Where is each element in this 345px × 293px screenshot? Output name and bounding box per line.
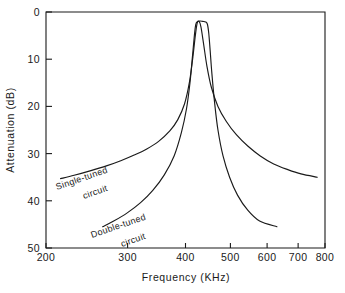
y-axis-title: Attenuation (dB) (4, 87, 16, 172)
attenuation-vs-frequency-chart: 200300400500600700800 01020304050 Freque… (0, 0, 345, 293)
plot-frame (46, 12, 325, 248)
y-axis-tick-labels: 01020304050 (28, 6, 40, 254)
y-tick-label: 40 (28, 195, 40, 207)
y-axis-ticks (46, 12, 52, 248)
x-tick-label: 300 (118, 251, 137, 263)
y-tick-label: 30 (28, 148, 40, 160)
x-tick-label: 500 (221, 251, 240, 263)
double-tuned-label: Double-tuned circuit (89, 212, 147, 249)
x-axis-title: Frequency (KHz) (142, 271, 230, 283)
x-tick-label: 800 (316, 251, 335, 263)
single-tuned-label-line2: circuit (81, 183, 109, 201)
x-tick-label: 600 (258, 251, 277, 263)
single-tuned-label: Single-tuned circuit (54, 165, 109, 201)
y-tick-label: 0 (34, 6, 40, 18)
y-tick-label: 20 (28, 100, 40, 112)
single-tuned-curve (61, 21, 318, 179)
x-axis-tick-labels: 200300400500600700800 (37, 251, 335, 263)
x-tick-label: 700 (289, 251, 308, 263)
chart-svg: 200300400500600700800 01020304050 Freque… (0, 0, 345, 293)
y-tick-label: 10 (28, 53, 40, 65)
double-tuned-label-line2: circuit (119, 231, 147, 249)
x-tick-label: 400 (176, 251, 195, 263)
y-tick-label: 50 (28, 242, 40, 254)
x-axis-ticks (46, 243, 325, 248)
double-tuned-curve (103, 21, 277, 227)
